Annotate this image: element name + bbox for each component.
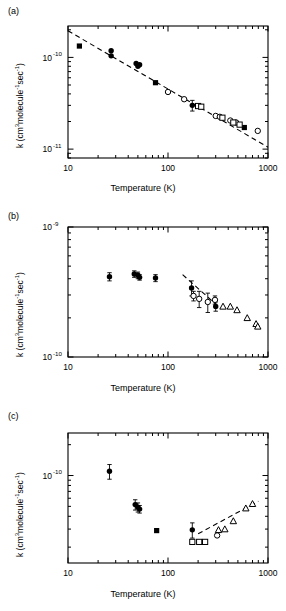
ylabel-suffix: ): [15, 272, 25, 275]
ylabel-mid: molecule: [15, 90, 25, 124]
series-open-square: [190, 539, 208, 544]
series-open-circle: [214, 533, 219, 538]
y-tick-label: 10: [43, 53, 53, 63]
ylabel-exp-m1b: -1: [14, 275, 20, 280]
x-tick-label: 1000: [259, 568, 278, 578]
panel-b-plot: 10100100010-910-10: [0, 205, 286, 405]
ylabel-exp-m1b: -1: [14, 66, 20, 71]
panel-a-xaxis-label: Temperature (K): [0, 183, 286, 193]
ylabel-exp-m1a: -1: [14, 294, 20, 299]
ylabel-exp-3: 3: [14, 333, 20, 336]
ylabel-exp-3: 3: [14, 533, 20, 536]
data-layer: [107, 465, 259, 545]
y-tick-label: 10: [43, 352, 53, 362]
series-open-triangle: [220, 303, 261, 329]
panel-c-yaxis-label: k (cm3molecule-1sec-1): [14, 472, 25, 557]
ylabel-mid: molecule: [15, 499, 25, 533]
x-tick-label: 10: [63, 362, 73, 372]
ylabel-suffix: ): [15, 63, 25, 66]
ylabel-exp-m1a: -1: [14, 494, 20, 499]
y-tick-exponent: -10: [53, 350, 63, 357]
data-layer: [107, 271, 261, 329]
panel-a-svg: 10100100010-1010-11: [0, 0, 286, 205]
ylabel-prefix: k (cm: [15, 536, 25, 557]
panel-b-svg: 10100100010-910-10: [0, 205, 286, 405]
panel-c-svg: 10100100010-10: [0, 405, 286, 611]
ylabel-exp-m1b: -1: [14, 475, 20, 480]
y-tick-exponent: -10: [53, 50, 63, 57]
ylabel-exp-m1a: -1: [14, 85, 20, 90]
x-tick-label: 100: [161, 163, 175, 173]
ylabel-sec: sec: [15, 280, 25, 293]
panel-c-plot: 10100100010-10: [0, 405, 286, 611]
panel-b-xaxis-label: Temperature (K): [0, 383, 286, 393]
x-tick-label: 1000: [259, 362, 278, 372]
ylabel-suffix: ): [15, 472, 25, 475]
x-tick-label: 1000: [259, 163, 278, 173]
y-tick-exponent: -10: [53, 468, 63, 475]
y-tick-label: 10: [43, 471, 53, 481]
panel-a-yaxis-label: k (cm3molecule-1sec-1): [14, 63, 25, 148]
x-tick-label: 100: [161, 568, 175, 578]
y-tick-label: 10: [43, 222, 53, 232]
y-tick-exponent: -11: [53, 142, 62, 149]
ylabel-prefix: k (cm: [15, 336, 25, 357]
series-filled-circle: [107, 465, 195, 539]
series-filled-square: [154, 528, 159, 533]
x-tick-label: 100: [161, 362, 175, 372]
x-tick-label: 10: [63, 568, 73, 578]
series-open-triangle: [215, 501, 255, 533]
panel-c: (c) 10100100010-10 Temperature (K) k (cm…: [0, 405, 286, 611]
y-tick-label: 10: [43, 144, 53, 154]
data-layer: [68, 31, 268, 147]
panel-a-plot: 10100100010-1010-11: [0, 0, 286, 205]
ylabel-sec: sec: [15, 71, 25, 84]
series-filled-circle: [107, 271, 219, 311]
y-tick-exponent: -9: [53, 220, 59, 227]
panel-b: (b) 10100100010-910-10 Temperature (K) k…: [0, 205, 286, 405]
panel-a: (a) 10100100010-1010-11 Temperature (K) …: [0, 0, 286, 205]
ylabel-exp-3: 3: [14, 124, 20, 127]
figure-three-panel-rate-constants: (a) 10100100010-1010-11 Temperature (K) …: [0, 0, 286, 611]
panel-c-xaxis-label: Temperature (K): [0, 589, 286, 599]
ylabel-sec: sec: [15, 480, 25, 493]
ylabel-prefix: k (cm: [15, 127, 25, 148]
x-tick-label: 10: [63, 163, 73, 173]
panel-b-yaxis-label: k (cm3molecule-1sec-1): [14, 272, 25, 357]
ylabel-mid: molecule: [15, 299, 25, 333]
